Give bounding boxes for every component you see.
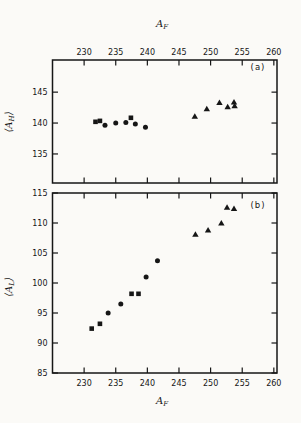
data-point-triangle <box>231 206 237 212</box>
x-tick-label-top: 230 <box>76 48 91 57</box>
x-tick-label-top: 245 <box>171 48 186 57</box>
data-point-circle <box>106 311 111 316</box>
x-tick-label-top: 240 <box>140 48 155 57</box>
y-tick-label: 140 <box>32 119 47 128</box>
y-tick-label: 135 <box>32 150 47 159</box>
data-point-circle <box>144 275 149 280</box>
data-point-triangle <box>231 99 237 105</box>
y-tick-label: 90 <box>37 339 47 348</box>
data-point-square <box>136 292 141 297</box>
data-point-circle <box>102 123 107 128</box>
x-tick-label-bottom: 235 <box>108 379 123 388</box>
panel-a-frame <box>53 60 278 183</box>
data-point-triangle <box>204 106 210 112</box>
x-axis-title-bottom: AF <box>155 395 169 408</box>
data-point-triangle <box>205 227 211 233</box>
x-tick-label-top: 250 <box>203 48 218 57</box>
data-point-triangle <box>224 104 230 110</box>
y-axis-title-b: ⟨AL⟩ <box>3 277 16 297</box>
data-point-square <box>93 120 98 125</box>
data-point-square <box>98 322 103 327</box>
panel-b-label: (b) <box>250 200 265 210</box>
y-tick-label: 105 <box>32 249 47 258</box>
data-point-triangle <box>192 113 198 119</box>
x-tick-label-bottom: 230 <box>76 379 91 388</box>
x-tick-label-bottom: 260 <box>266 379 281 388</box>
x-tick-label-bottom: 240 <box>140 379 155 388</box>
y-tick-label: 100 <box>32 279 47 288</box>
data-point-triangle <box>218 220 224 226</box>
y-tick-label: 85 <box>37 369 47 378</box>
x-axis-title-top: AF <box>155 18 169 31</box>
data-point-square <box>89 326 94 331</box>
x-tick-label-top: 255 <box>235 48 250 57</box>
x-tick-label-bottom: 245 <box>171 379 186 388</box>
x-tick-label-bottom: 255 <box>235 379 250 388</box>
y-axis-title-a: ⟨AH⟩ <box>3 111 16 132</box>
data-point-triangle <box>224 204 230 210</box>
two-panel-scatter-figure: 135140145(a)⟨AH⟩859095100105110115(b)⟨AL… <box>0 0 301 423</box>
data-point-circle <box>118 302 123 307</box>
data-point-circle <box>113 121 118 126</box>
y-tick-label: 110 <box>32 219 47 228</box>
data-point-circle <box>133 121 138 126</box>
panel-a-label: (a) <box>251 62 266 72</box>
data-point-square <box>129 115 134 120</box>
data-point-circle <box>123 120 128 125</box>
data-point-square <box>129 292 134 297</box>
x-tick-label-top: 235 <box>108 48 123 57</box>
data-point-triangle <box>216 100 222 106</box>
y-tick-label: 115 <box>32 189 47 198</box>
y-tick-label: 95 <box>37 309 47 318</box>
data-point-square <box>98 119 103 124</box>
x-tick-label-bottom: 250 <box>203 379 218 388</box>
x-tick-label-top: 260 <box>266 48 281 57</box>
panel-b-frame <box>53 193 278 373</box>
figure-container: 135140145(a)⟨AH⟩859095100105110115(b)⟨AL… <box>0 0 301 423</box>
data-point-circle <box>143 125 148 130</box>
data-point-circle <box>155 258 160 263</box>
y-tick-label: 145 <box>32 88 47 97</box>
data-point-triangle <box>192 231 198 237</box>
